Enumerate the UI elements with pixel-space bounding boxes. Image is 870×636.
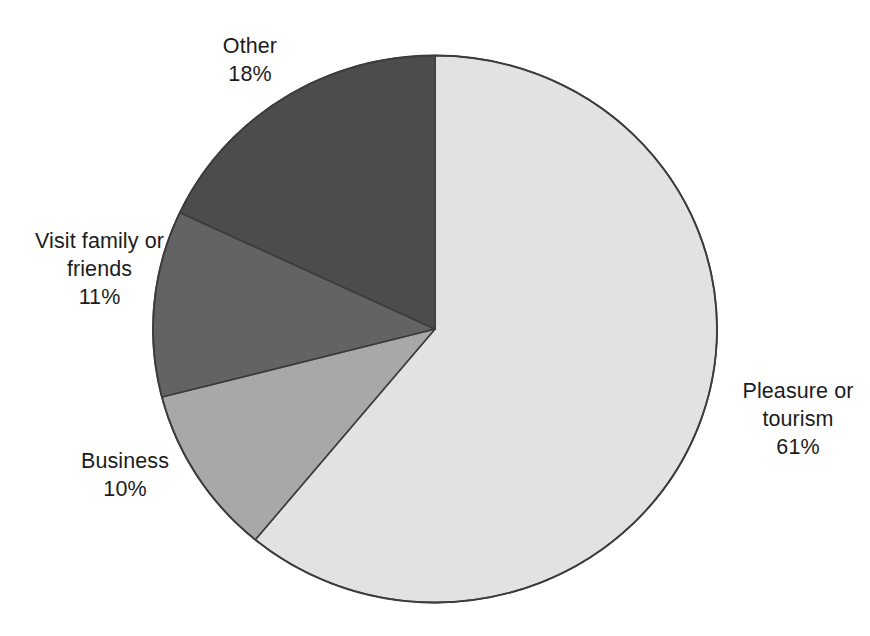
pie-label-other-name: Other <box>160 33 340 61</box>
pie-label-business: Business 10% <box>35 448 215 504</box>
pie-label-other: Other 18% <box>160 33 340 89</box>
pie-label-visit-family-or-friends: Visit family or friends 11% <box>0 228 207 312</box>
pie-label-pleasure-or-tourism: Pleasure or tourism 61% <box>718 378 870 462</box>
pie-label-pleasure-value: 61% <box>718 434 870 462</box>
pie-label-visit-name-line2: friends <box>0 256 207 284</box>
pie-label-business-value: 10% <box>35 476 215 504</box>
pie-label-visit-value: 11% <box>0 284 207 312</box>
pie-label-visit-name-line1: Visit family or <box>0 228 207 256</box>
pie-label-business-name: Business <box>35 448 215 476</box>
pie-label-pleasure-name-line2: tourism <box>718 406 870 434</box>
pie-chart: Other 18% Visit family or friends 11% Bu… <box>0 0 870 636</box>
pie-label-other-value: 18% <box>160 61 340 89</box>
pie-label-pleasure-name-line1: Pleasure or <box>718 378 870 406</box>
pie-chart-svg <box>0 0 870 636</box>
